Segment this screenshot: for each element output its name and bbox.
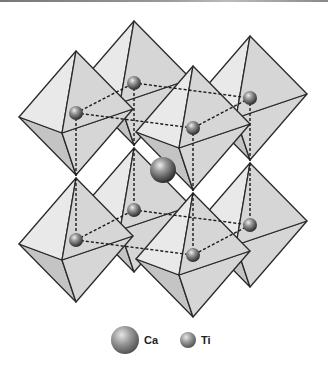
- ti-atom: [186, 248, 200, 262]
- legend-label-ca: Ca: [144, 334, 158, 346]
- ti-atom: [243, 218, 257, 232]
- ti-atom: [243, 91, 257, 105]
- ti-atom: [186, 121, 200, 135]
- ca-atom: [150, 157, 176, 183]
- legend-item-ti: Ti: [180, 332, 211, 348]
- ti-atom-icon: [180, 332, 196, 348]
- legend: Ca Ti: [0, 325, 328, 365]
- ti-atom: [127, 76, 141, 90]
- legend-label-ti: Ti: [201, 334, 211, 346]
- ti-atom: [69, 106, 83, 120]
- ti-atom: [69, 233, 83, 247]
- ti-atom: [127, 203, 141, 217]
- legend-item-ca: Ca: [111, 326, 158, 354]
- perovskite-structure-diagram: [0, 0, 328, 325]
- ca-atom-icon: [111, 326, 139, 354]
